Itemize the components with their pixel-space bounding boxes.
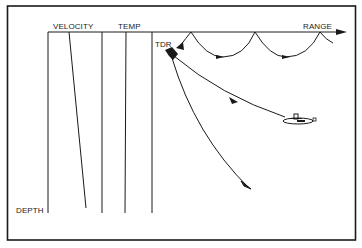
ray-arrow-icon [241, 181, 251, 189]
range-arrow-icon [336, 29, 347, 35]
submarine-icon [283, 114, 316, 124]
temp-label: TEMP [118, 22, 141, 31]
tdr-label: TDR [155, 40, 172, 49]
velocity-label: VELOCITY [53, 22, 94, 31]
surface-ray-arc-2 [255, 32, 320, 57]
outer-frame [8, 6, 356, 240]
ray-arrow-icon [229, 97, 238, 104]
velocity-profile-line [69, 32, 86, 208]
surface-ray-arc-1 [191, 32, 255, 57]
ray-arrow-icon [282, 55, 290, 59]
depth-label: DEPTH [16, 206, 44, 215]
sound-propagation-diagram: VELOCITY TEMP TDR RANGE DEPTH [0, 0, 362, 248]
ray-arrow-icon [176, 42, 184, 50]
deep-ray [172, 58, 249, 188]
range-label: RANGE [303, 22, 332, 31]
temp-profile-line [125, 32, 126, 213]
target-ray [174, 56, 285, 117]
surface-ray-arc-3 [320, 32, 333, 43]
ray-arrow-icon [216, 55, 224, 59]
